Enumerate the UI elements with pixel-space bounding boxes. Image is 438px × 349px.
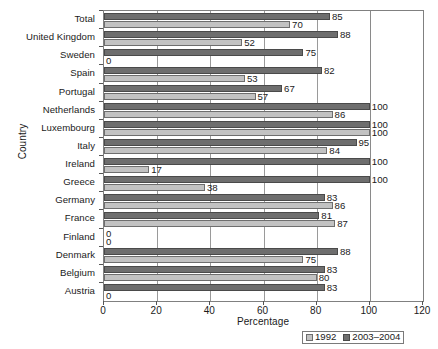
bar-value-label: 82 [324, 66, 335, 76]
y-axis-label: Germany [55, 194, 95, 205]
bar-value-label: 75 [305, 255, 316, 265]
bar-2003-2004 [104, 266, 325, 273]
bar-1992 [104, 220, 335, 227]
y-axis-label: Netherlands [43, 104, 95, 115]
bar-1992 [104, 93, 256, 100]
bar-1992 [104, 39, 242, 46]
bar-1992 [104, 129, 370, 136]
bar-2003-2004 [104, 67, 322, 74]
bar-value-label: 88 [340, 247, 351, 257]
bar-2003-2004 [104, 212, 319, 219]
legend-label: 2003–2004 [352, 332, 400, 342]
bar-2003-2004 [104, 176, 370, 183]
plot-area: 8570885275082536757100861001009584100171… [103, 10, 424, 302]
y-axis-label: Greece [63, 176, 95, 187]
y-axis-label: Austria [65, 285, 95, 296]
bar-value-label: 52 [244, 38, 255, 48]
gridline-80 [317, 11, 318, 301]
bar-value-label: 100 [372, 157, 388, 167]
x-axis-tick-label: 60 [257, 305, 268, 316]
bar-1992 [104, 111, 333, 118]
y-axis-label: Sweden [60, 49, 95, 60]
legend-entry: 1992 [306, 332, 336, 342]
bar-value-label: 0 [106, 291, 111, 301]
y-axis-label: Ireland [65, 158, 95, 169]
x-axis-tick-label: 100 [360, 305, 377, 316]
bar-value-label: 17 [151, 165, 162, 175]
bar-2003-2004 [104, 248, 338, 255]
y-axis-category-labels: TotalUnited KingdomSwedenSpainPortugalNe… [0, 10, 98, 300]
bar-2003-2004 [104, 31, 338, 38]
x-axis-tick-label: 80 [310, 305, 321, 316]
bar-value-label: 85 [332, 12, 343, 22]
bar-value-label: 86 [335, 201, 346, 211]
x-axis-ticks: 020406080100120 [103, 301, 423, 317]
bar-value-label: 100 [372, 128, 388, 138]
bar-1992 [104, 147, 327, 154]
bar-2003-2004 [104, 139, 357, 146]
legend-entry: 2003–2004 [343, 332, 400, 342]
bar-1992 [104, 256, 303, 263]
bar-value-label: 0 [106, 56, 111, 66]
bar-value-label: 84 [329, 146, 340, 156]
bar-1992 [104, 75, 245, 82]
bar-2003-2004 [104, 49, 303, 56]
bar-1992 [104, 274, 317, 281]
x-axis-title: Percentage [103, 316, 423, 327]
bar-value-label: 75 [305, 48, 316, 58]
bar-2003-2004 [104, 158, 370, 165]
y-axis-label: Spain [70, 67, 95, 78]
bar-value-label: 57 [258, 92, 269, 102]
legend-label: 1992 [315, 332, 336, 342]
bar-value-label: 100 [372, 102, 388, 112]
y-axis-label: Finland [63, 231, 95, 242]
legend-swatch [343, 334, 350, 341]
y-axis-label: Belgium [60, 267, 95, 278]
bar-1992 [104, 21, 290, 28]
y-axis-label: Denmark [56, 249, 95, 260]
y-axis-label: Total [74, 13, 95, 24]
bar-2003-2004 [104, 103, 370, 110]
bar-value-label: 86 [335, 110, 346, 120]
bar-value-label: 67 [284, 84, 295, 94]
x-axis-tick-label: 20 [151, 305, 162, 316]
bar-value-label: 100 [372, 175, 388, 185]
bar-1992 [104, 184, 205, 191]
y-axis-label: Italy [77, 140, 95, 151]
bar-2003-2004 [104, 194, 325, 201]
bar-2003-2004 [104, 85, 282, 92]
bar-value-label: 53 [247, 74, 258, 84]
bar-value-label: 87 [337, 219, 348, 229]
gridline-100 [370, 11, 371, 301]
y-axis-label: United Kingdom [26, 31, 95, 42]
bar-1992 [104, 202, 333, 209]
bar-2003-2004 [104, 284, 325, 291]
y-axis-label: Luxembourg [41, 122, 95, 133]
y-axis-label: Portugal [59, 86, 95, 97]
bar-value-label: 38 [207, 183, 218, 193]
bar-value-label: 88 [340, 30, 351, 40]
bar-1992 [104, 166, 149, 173]
bar-value-label: 83 [327, 283, 338, 293]
bar-value-label: 95 [359, 138, 370, 148]
bar-value-label: 70 [292, 20, 303, 30]
x-axis-tick-label: 40 [204, 305, 215, 316]
x-axis-tick-label: 0 [100, 305, 106, 316]
legend-swatch [306, 334, 313, 341]
bar-value-label: 0 [106, 237, 111, 247]
x-axis-tick-label: 120 [414, 305, 431, 316]
chart-legend: 19922003–2004 [302, 331, 404, 344]
y-axis-label: France [65, 212, 95, 223]
bar-2003-2004 [104, 121, 370, 128]
bar-chart: Country TotalUnited KingdomSwedenSpainPo… [0, 0, 438, 349]
